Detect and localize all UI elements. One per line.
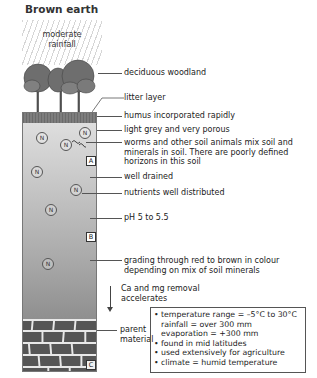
nutrient-icon: N <box>36 132 48 144</box>
label-grading-line-1: grading through red to brown in colour <box>124 256 279 266</box>
label-worms-line-2: minerals in soil. There are poorly defin… <box>124 148 293 158</box>
rainfall-label: moderate rainfall <box>34 30 90 50</box>
info-text: evaporation = +300 mm <box>161 329 258 338</box>
leader-line <box>90 218 122 219</box>
label-woodland: deciduous woodland <box>124 68 206 78</box>
soil-horizon-gradient <box>23 123 96 319</box>
nutrient-icon: N <box>42 258 54 270</box>
horizon-a-marker: A <box>86 156 96 166</box>
leader-line <box>97 130 122 131</box>
leader-line <box>90 260 122 261</box>
info-text: used extensively for agriculture <box>161 348 285 357</box>
leader-line <box>92 96 124 113</box>
leader-line <box>97 330 117 331</box>
label-grading-line-2: depending on mix of soil minerals <box>124 266 279 276</box>
rainfall-label-line-1: moderate <box>34 30 90 40</box>
nutrient-icon: N <box>31 166 43 178</box>
deciduous-trees-icon <box>22 58 98 112</box>
label-removal-line-1: Ca and mg removal <box>121 284 200 294</box>
diagram-title: Brown earth <box>25 3 98 15</box>
nutrient-icon: N <box>45 204 57 216</box>
worm-icon <box>71 139 87 149</box>
down-arrow-icon <box>110 286 111 308</box>
label-parent-line-2: material <box>120 335 153 345</box>
nutrient-icon: N <box>70 184 82 196</box>
label-parent-material: parent material <box>120 325 153 344</box>
bullet-icon: • <box>154 348 161 358</box>
label-ph: pH 5 to 5.5 <box>124 213 169 223</box>
leader-line <box>98 73 122 74</box>
bullet-icon: • <box>154 310 161 320</box>
label-worms-line-3: horizons in this soil <box>124 157 293 167</box>
leader-line <box>97 116 122 117</box>
label-grey-porous: light grey and very porous <box>124 125 230 135</box>
nutrient-icon: N <box>79 127 91 139</box>
info-text: found in mid latitudes <box>161 339 247 348</box>
label-grading: grading through red to brown in colour d… <box>124 256 279 275</box>
label-removal-line-2: accelerates <box>121 294 200 304</box>
humus-layer <box>23 113 96 123</box>
info-item: •found in mid latitudes <box>154 339 302 349</box>
label-ca-mg-removal: Ca and mg removal accelerates <box>121 284 200 303</box>
label-nutrients: nutrients well distributed <box>124 188 224 198</box>
label-worms-line-1: worms and other soil animals mix soil an… <box>124 138 293 148</box>
horizon-c-marker: C <box>86 360 96 370</box>
label-parent-line-1: parent <box>120 325 153 335</box>
label-litter: litter layer <box>124 93 166 103</box>
soil-profile-column: N N N N N N N A B C <box>22 112 97 372</box>
leader-line <box>86 142 122 143</box>
rainfall-label-line-2: rainfall <box>34 40 90 50</box>
label-humus: humus incorporated rapidly <box>124 111 235 121</box>
info-item: evaporation = +300 mm <box>154 329 302 339</box>
bullet-icon: • <box>154 358 161 368</box>
info-item: •temperature range = –5°C to 30°C <box>154 310 302 320</box>
info-item: •used extensively for agriculture <box>154 348 302 358</box>
info-text: rainfall = over 300 mm <box>161 320 252 329</box>
info-text: climate = humid temperature <box>161 358 277 367</box>
bullet-icon: • <box>154 339 161 349</box>
leader-line <box>82 193 122 194</box>
label-drained: well drained <box>124 172 173 182</box>
info-item: •climate = humid temperature <box>154 358 302 368</box>
horizon-b-marker: B <box>86 232 96 242</box>
info-item: rainfall = over 300 mm <box>154 320 302 330</box>
climate-info-box: •temperature range = –5°C to 30°C rainfa… <box>150 307 306 373</box>
leader-line <box>90 177 122 178</box>
info-text: temperature range = –5°C to 30°C <box>161 310 297 319</box>
label-worms: worms and other soil animals mix soil an… <box>124 138 293 167</box>
